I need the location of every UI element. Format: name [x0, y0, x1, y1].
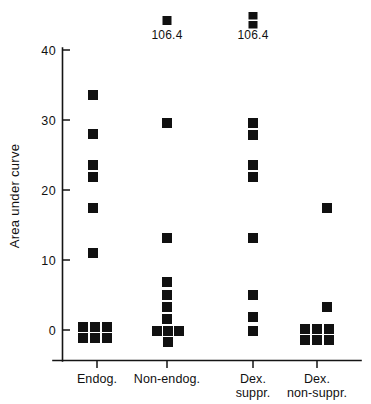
data-point	[102, 322, 112, 332]
data-point	[162, 118, 172, 128]
offscale-marker-dex-suppr-2	[249, 21, 258, 29]
x-label-non-endog: Non-endog.	[134, 372, 200, 386]
data-point	[78, 333, 88, 343]
data-point	[248, 312, 258, 322]
data-point	[88, 172, 98, 182]
data-point	[322, 302, 332, 312]
data-point	[102, 333, 112, 343]
offscale-label-dex-suppr: 106.4	[237, 28, 268, 42]
offscale-marker-non-endog-1	[163, 16, 172, 25]
x-label-endog: Endog.	[77, 372, 117, 386]
data-point	[312, 324, 322, 334]
data-point	[324, 335, 334, 345]
data-point	[312, 335, 322, 345]
y-tick-label-0: 0	[49, 324, 56, 338]
data-point	[88, 90, 98, 100]
data-point	[88, 248, 98, 258]
x-label-dex-non-suppr-line1: Dex.	[304, 372, 330, 386]
x-label-dex-non-suppr-line2: non-suppr.	[287, 386, 347, 400]
x-label-dex-suppr-line2: suppr.	[236, 386, 271, 400]
data-point	[248, 118, 258, 128]
y-tick-label-20: 20	[41, 184, 56, 198]
data-point	[300, 324, 310, 334]
scatter-plot-figure: 40 30 20 10 0 Area under curve Endog. No…	[0, 0, 371, 404]
data-point	[300, 335, 310, 345]
y-tick-label-10: 10	[41, 254, 56, 268]
data-point	[88, 129, 98, 139]
data-point	[90, 333, 100, 343]
data-point	[248, 172, 258, 182]
data-point	[162, 277, 172, 287]
offscale-marker-dex-suppr-1	[249, 12, 258, 20]
data-point	[162, 290, 172, 300]
data-point	[163, 326, 173, 336]
data-point	[162, 314, 172, 324]
y-axis-title: Area under curve	[7, 144, 22, 249]
data-point	[248, 326, 258, 336]
data-point	[162, 302, 172, 312]
data-point	[174, 326, 184, 336]
data-point	[162, 233, 172, 243]
data-point	[152, 326, 162, 336]
data-point	[248, 233, 258, 243]
data-point	[78, 322, 88, 332]
data-point	[322, 203, 332, 213]
data-point	[163, 337, 173, 347]
plot-canvas: 40 30 20 10 0 Area under curve Endog. No…	[0, 0, 371, 404]
y-tick-label-30: 30	[41, 114, 56, 128]
y-tick-label-40: 40	[41, 44, 56, 58]
x-label-dex-suppr-line1: Dex.	[240, 372, 266, 386]
data-point	[248, 290, 258, 300]
data-point	[248, 160, 258, 170]
data-point	[90, 322, 100, 332]
offscale-label-non-endog: 106.4	[151, 28, 182, 42]
data-point	[248, 130, 258, 140]
data-point	[88, 203, 98, 213]
data-point	[324, 324, 334, 334]
data-point	[88, 160, 98, 170]
